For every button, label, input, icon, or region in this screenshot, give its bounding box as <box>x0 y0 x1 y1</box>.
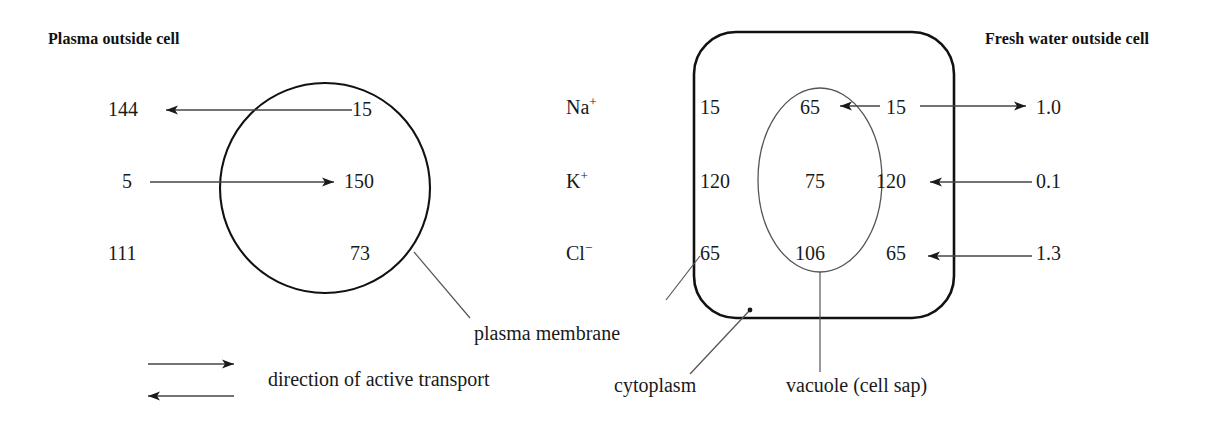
vacuole-value-chloride: 106 <box>795 242 825 265</box>
inner-edge-value-sodium: 15 <box>886 96 906 119</box>
external-value-potassium: 0.1 <box>1036 170 1061 193</box>
cytoplasm-value-sodium: 15 <box>700 96 720 119</box>
vacuole-label: vacuole (cell sap) <box>786 374 927 397</box>
ion-symbol-chloride: Cl <box>566 242 585 264</box>
left-row1-outside-value: 144 <box>108 98 138 121</box>
ion-symbol-potassium: K <box>566 170 580 192</box>
left-row2-outside-value: 5 <box>122 170 132 193</box>
left-panel-heading: Plasma outside cell <box>48 30 180 48</box>
ion-symbol-sodium: Na <box>566 96 589 118</box>
legend-label: direction of active transport <box>268 368 490 391</box>
cytoplasm-value-potassium: 120 <box>700 170 730 193</box>
left-row1-inside-value: 15 <box>352 98 372 121</box>
external-value-sodium: 1.0 <box>1036 96 1061 119</box>
diagram-vector-layer <box>0 0 1225 426</box>
external-value-chloride: 1.3 <box>1036 242 1061 265</box>
cytoplasm-leader-dot <box>748 308 753 313</box>
plasma-membrane-label: plasma membrane <box>474 322 620 345</box>
ion-concentration-diagram: Plasma outside cell 144 15 5 150 111 73 … <box>0 0 1225 426</box>
vacuole-value-sodium: 65 <box>800 96 820 119</box>
ion-label-potassium: K+ <box>566 170 588 193</box>
cytoplasm-value-chloride: 65 <box>700 242 720 265</box>
inner-edge-value-chloride: 65 <box>886 242 906 265</box>
inner-edge-value-potassium: 120 <box>876 170 906 193</box>
vacuole-value-potassium: 75 <box>805 170 825 193</box>
ion-label-chloride: Cl− <box>566 242 592 265</box>
ion-charge-sodium: + <box>589 94 596 109</box>
ion-label-sodium: Na+ <box>566 96 597 119</box>
left-row3-outside-value: 111 <box>108 242 137 265</box>
left-row3-inside-value: 73 <box>350 242 370 265</box>
cytoplasm-leader-line <box>690 310 750 374</box>
ion-charge-chloride: − <box>585 240 592 255</box>
right-panel-heading: Fresh water outside cell <box>985 30 1149 48</box>
left-row2-inside-value: 150 <box>344 170 374 193</box>
plasma-membrane-leader-line <box>414 252 470 318</box>
ion-charge-potassium: + <box>580 168 587 183</box>
animal-cell-membrane-circle <box>220 83 430 293</box>
cytoplasm-label: cytoplasm <box>614 374 696 397</box>
